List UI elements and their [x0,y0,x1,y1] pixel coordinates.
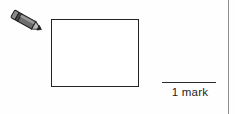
worksheet-page: 1 mark [0,0,235,114]
marks-label: 1 mark [162,85,218,99]
pencil-icon [6,8,48,38]
blank-answer-rectangle[interactable] [51,19,139,87]
page-edge-rule [228,0,229,114]
marks-divider-rule [162,82,216,83]
marks-allocation: 1 mark [162,82,218,99]
